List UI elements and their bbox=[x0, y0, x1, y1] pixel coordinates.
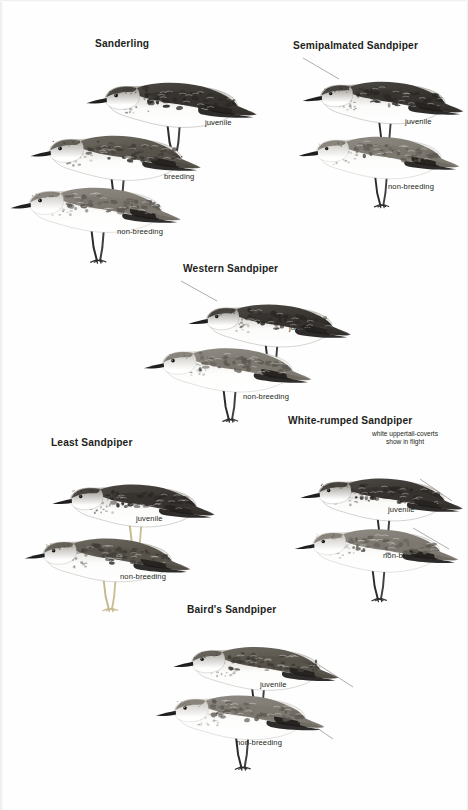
bird-illustration-non-breeding bbox=[22, 510, 192, 615]
annotation-line: white uppertail-coverts bbox=[372, 430, 438, 438]
species-heading-sanderling: Sanderling bbox=[95, 38, 149, 49]
bird-illustration-non-breeding bbox=[152, 668, 327, 772]
plumage-label-juvenile: juvenile bbox=[260, 680, 287, 689]
species-heading-least-sandpiper: Least Sandpiper bbox=[51, 437, 133, 448]
plumage-label-juvenile: juvenile bbox=[388, 505, 415, 514]
bird-illustration-non-breeding bbox=[6, 160, 184, 265]
plumage-label-non-breeding: non-breeding bbox=[117, 227, 163, 236]
page-edge-left bbox=[0, 0, 3, 810]
species-heading-western-sandpiper: Western Sandpiper bbox=[183, 263, 278, 274]
plumage-label-non-breeding: non-breeding bbox=[383, 551, 429, 560]
annotation-line: show in flight bbox=[372, 438, 438, 446]
plumage-label-non-breeding: non-breeding bbox=[388, 182, 434, 191]
plumage-label-juvenile: juvenile bbox=[205, 118, 232, 127]
field-guide-plate: Sanderlingjuvenilebreedingnon-breedingSe… bbox=[0, 0, 468, 810]
field-mark-annotation: white uppertail-covertsshow in flight bbox=[372, 430, 438, 447]
species-heading-bairds-sandpiper: Baird's Sandpiper bbox=[187, 604, 276, 615]
plumage-label-juvenile: juvenile bbox=[136, 514, 163, 523]
plumage-label-breeding: breeding bbox=[164, 172, 194, 181]
species-heading-white-rumped-sandpiper: White-rumped Sandpiper bbox=[288, 415, 412, 426]
plumage-label-juvenile: juvenile bbox=[289, 323, 316, 332]
bird-illustration-non-breeding bbox=[296, 110, 461, 210]
page-edge-top bbox=[0, 0, 468, 2]
species-heading-semipalmated-sandpiper: Semipalmated Sandpiper bbox=[293, 40, 418, 51]
plumage-label-juvenile: juvenile bbox=[405, 117, 432, 126]
plumage-label-non-breeding: non-breeding bbox=[243, 392, 289, 401]
plumage-label-non-breeding: non-breeding bbox=[236, 738, 282, 747]
plumage-label-non-breeding: non-breeding bbox=[120, 572, 166, 581]
bird-illustration-non-breeding bbox=[141, 320, 313, 425]
bird-illustration-non-breeding bbox=[292, 502, 460, 604]
